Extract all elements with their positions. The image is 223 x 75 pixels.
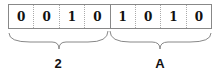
brace-right-icon	[110, 31, 211, 49]
brace-left-icon	[9, 31, 108, 49]
hex-label-low: A	[155, 56, 164, 71]
grouping-braces	[0, 0, 223, 75]
hex-label-high: 2	[54, 56, 61, 71]
